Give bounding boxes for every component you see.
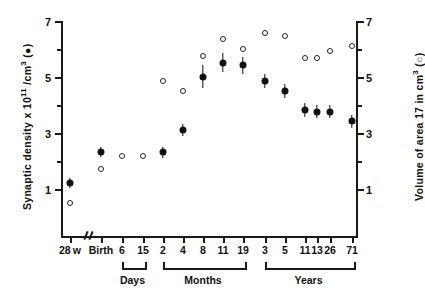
data-point-s0-2	[160, 149, 167, 156]
data-point-s0-4	[180, 126, 187, 133]
data-point-s0-11	[302, 107, 309, 114]
data-point-s1-5	[282, 33, 288, 39]
data-point-s1-2	[160, 78, 166, 84]
data-point-s0-28w	[67, 180, 74, 187]
data-point-s1-4	[180, 88, 186, 94]
data-point-s1-3	[262, 30, 268, 36]
data-point-s1-8	[200, 53, 206, 59]
data-point-s1-6	[119, 153, 125, 159]
data-point-s0-8	[200, 73, 207, 80]
data-point-s0-26	[327, 108, 334, 115]
data-point-s0-11	[220, 59, 227, 66]
data-point-s1-19	[240, 46, 246, 52]
data-point-s0-71	[349, 118, 356, 125]
data-point-s1-71	[349, 43, 355, 49]
data-point-s1-11	[302, 55, 308, 61]
data-point-s1-Birth	[98, 166, 104, 172]
data-point-s0-13	[314, 108, 321, 115]
data-point-s0-5	[282, 87, 289, 94]
data-point-s1-11	[220, 36, 226, 42]
data-point-s0-19	[240, 62, 247, 69]
data-point-s0-3	[262, 77, 269, 84]
data-point-s1-13	[314, 55, 320, 61]
data-point-s0-Birth	[98, 149, 105, 156]
data-point-s1-28w	[67, 200, 73, 206]
data-point-s1-15	[140, 153, 146, 159]
data-point-s1-26	[327, 48, 333, 54]
